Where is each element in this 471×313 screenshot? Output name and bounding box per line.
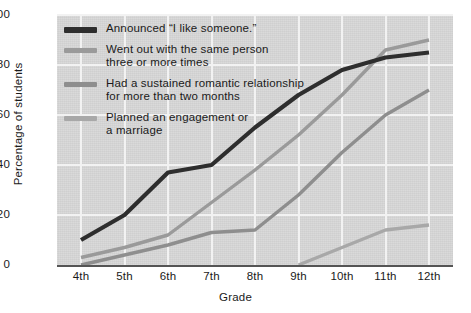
legend-item[interactable]: Announced “I like someone.” — [64, 22, 364, 36]
legend-swatch-icon — [64, 116, 97, 121]
legend-item[interactable]: Planned an engagement or a marriage — [64, 111, 364, 138]
legend-item-label: Planned an engagement or a marriage — [106, 111, 248, 138]
line-chart: 020406080100 Percentage of students 4th5… — [0, 0, 471, 313]
series-line — [299, 225, 430, 265]
y-axis-label: Percentage of students — [12, 44, 24, 204]
x-tick-label: 12th — [399, 270, 459, 282]
legend-item-label: Had a sustained romantic relationship fo… — [106, 77, 304, 104]
legend-item[interactable]: Went out with the same person three or m… — [64, 43, 364, 70]
legend: Announced “I like someone.”Went out with… — [64, 22, 364, 145]
legend-item-label: Announced “I like someone.” — [106, 22, 256, 36]
y-tick-label: 80 — [0, 58, 10, 70]
y-tick-label: 0 — [0, 258, 10, 270]
x-axis-line — [57, 265, 453, 267]
y-tick-label: 60 — [0, 108, 10, 120]
x-axis-label: Grade — [0, 291, 471, 303]
legend-swatch-icon — [64, 27, 97, 33]
legend-swatch-icon — [64, 82, 97, 87]
y-tick-label: 40 — [0, 158, 10, 170]
legend-swatch-icon — [64, 48, 97, 53]
y-tick-label: 100 — [0, 8, 10, 20]
legend-item[interactable]: Had a sustained romantic relationship fo… — [64, 77, 364, 104]
legend-item-label: Went out with the same person three or m… — [106, 43, 269, 70]
y-tick-label: 20 — [0, 208, 10, 220]
